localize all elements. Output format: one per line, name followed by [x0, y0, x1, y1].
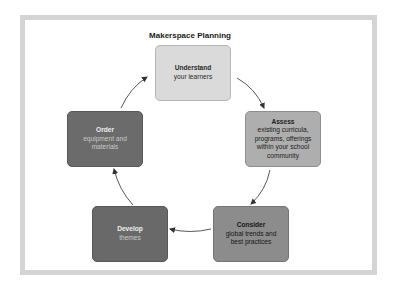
- step-body: best practices: [231, 238, 272, 247]
- arrow-consider-to-develop: [170, 229, 211, 232]
- step-body: programs, offerings: [255, 135, 312, 144]
- step-body: your learners: [174, 73, 212, 82]
- arrow-assess-to-consider: [251, 170, 270, 204]
- step-heading: Develop: [117, 225, 143, 234]
- step-body: themes: [119, 234, 141, 243]
- step-consider: Consider global trends and best practice…: [213, 206, 289, 262]
- step-order: Order equipment and materials: [67, 111, 143, 167]
- step-body: within your school: [257, 143, 309, 152]
- step-body: global trends and: [226, 230, 277, 239]
- step-understand: Understand your learners: [155, 45, 231, 101]
- step-heading: Assess: [271, 118, 294, 127]
- arrow-develop-to-order: [114, 169, 133, 205]
- arrow-understand-to-assess: [237, 78, 264, 108]
- cycle-arrows: [0, 0, 396, 289]
- step-develop: Develop themes: [92, 206, 168, 262]
- step-heading: Understand: [175, 64, 212, 73]
- arrow-order-to-understand: [121, 77, 147, 108]
- step-heading: Consider: [237, 221, 266, 230]
- step-body: community: [267, 152, 299, 161]
- step-assess: Assess existing curricula, programs, off…: [245, 111, 321, 167]
- step-body: equipment and: [83, 135, 127, 144]
- step-body: materials: [92, 143, 119, 152]
- step-heading: Order: [96, 126, 114, 135]
- step-body: existing curricula,: [258, 126, 309, 135]
